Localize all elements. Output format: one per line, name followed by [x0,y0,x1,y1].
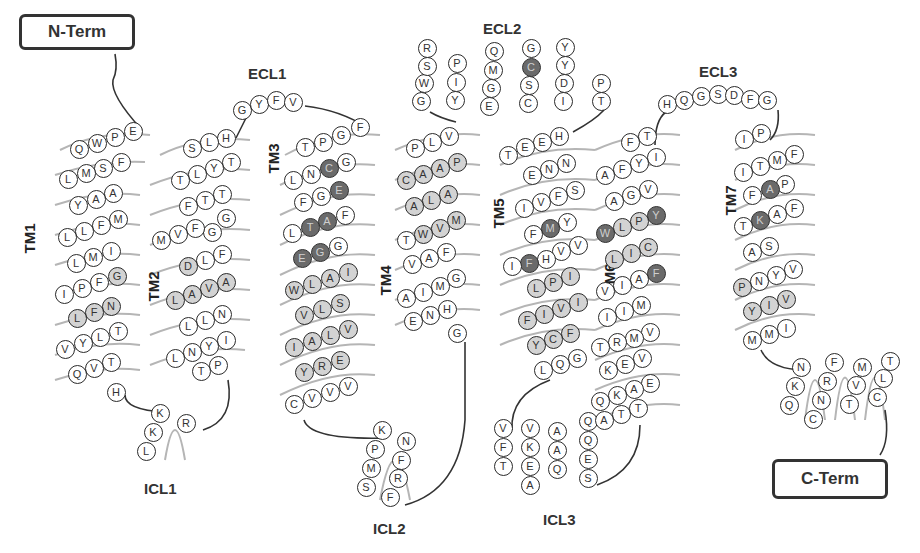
residue-tm5-31: Q [551,355,570,374]
residue-ecl3-7: G [758,91,777,110]
residue-tm6-27: L [613,218,632,237]
tm1-label: TM1 [21,224,38,254]
residue-tm7-16: V [784,260,803,279]
residue-tm5-29: Y [527,336,546,355]
tm4-label: TM4 [377,266,394,296]
residue-tm1-32: Q [68,365,87,384]
residue-tm6-19: A [630,270,649,289]
residue-tm4-7: I [414,283,433,302]
residue-tm2-19: F [186,219,205,238]
residue-tm6-30: G [622,186,641,205]
residue-tm5-1: H [550,127,569,146]
residue-ecl2-6: I [447,73,466,92]
residue-tm7-6: I [734,163,753,182]
residue-h8-1: N [792,358,811,377]
residue-tm4-18: A [405,197,424,216]
residue-tm3-27: L [321,326,340,345]
residue-icl2-2: P [366,440,385,459]
residue-tm5-19: I [503,257,522,276]
residue-tm6-13: R [608,333,627,352]
residue-icl3-9: A [548,441,567,460]
residue-ecl2-17: D [555,74,574,93]
residue-tm7-23: I [777,319,796,338]
residue-icl1-2: K [144,423,163,442]
residue-tm3-17: G [311,243,330,262]
residue-tm5-9: F [549,187,568,206]
residue-tm5-2: E [533,133,552,152]
residue-ecl2-21: P [592,74,611,93]
tm5-label: TM5 [490,199,507,229]
residue-ecl1-2: Y [250,95,269,114]
residue-tm1-21: P [73,279,92,298]
residue-tm7-17: Y [767,266,786,285]
residue-tm4-8: A [397,289,416,308]
residue-tm6-25: Y [647,206,666,225]
residue-tm5-32: L [534,361,553,380]
residue-tm2-1: P [209,356,228,375]
residue-tm6-33: Y [630,154,649,173]
residue-tm6-32: I [647,148,666,167]
residue-tm2-4: Y [200,337,219,356]
residue-tm2-10: A [217,273,236,292]
residue-ecl3-3: G [692,87,711,106]
residue-tm2-21: M [152,231,171,250]
residue-icl1-4: R [177,414,196,433]
residue-h8-5: N [812,391,831,410]
residue-tm3-20: A [321,269,340,288]
residue-tm6-16: I [615,302,634,321]
residue-ecl2-10: M [484,61,503,80]
residue-h8-8: T [840,395,859,414]
residue-ecl2-11: Q [485,42,504,61]
residue-tm6-9: E [616,355,635,374]
residue-icl3-8: A [548,422,567,441]
residue-tm6-2: T [629,399,648,418]
residue-ecl1-1: G [233,101,252,120]
residue-tm4-3: N [421,306,440,325]
residue-h8-3: Q [780,396,799,415]
residue-ecl2-13: S [520,76,539,95]
residue-tm5-5: N [557,154,576,173]
residue-tm2-29: H [217,129,236,148]
residue-tm4-4: E [404,312,423,331]
residue-tm1-22: I [55,285,74,304]
residue-tm2-7: N [213,305,232,324]
residue-h8-11: C [868,388,887,407]
residue-tm5-17: H [537,250,556,269]
residue-tm4-23: V [440,127,459,146]
residue-tm6-34: F [613,160,632,179]
residue-tm2-12: A [183,285,202,304]
residue-ecl3-6: F [741,90,760,109]
residue-tm2-16: D [179,257,198,276]
residue-tm7-18: N [750,272,769,291]
residue-h8-6: R [818,372,837,391]
residue-tm5-8: S [566,181,585,200]
n-terminus-box: N-Term [19,14,135,50]
residue-h8-10: M [853,358,872,377]
residue-icl2-4: S [357,478,376,497]
residue-tm1-20: F [90,273,109,292]
residue-tm5-25: I [535,305,554,324]
residue-tm7-3: F [785,145,804,164]
residue-h8-13: T [881,352,900,371]
residue-ecl1-3: F [267,91,286,110]
residue-tm6-3: A [595,411,614,430]
residue-tm2-9: L [179,317,198,336]
residue-tm5-26: F [518,311,537,330]
residue-tm3-16: G [329,237,348,256]
residue-tm6-10: K [599,361,618,380]
residue-tm3-33: V [339,377,358,396]
residue-tm7-14: S [760,237,779,256]
residue-tm3-2: G [332,126,351,145]
residue-tm2-6: L [166,349,185,368]
residue-tm2-26: Y [205,159,224,178]
residue-ecl2-5: Y [446,91,465,110]
residue-tm4-6: M [431,277,450,296]
residue-tm2-25: T [222,153,241,172]
residue-ecl2-2: W [415,74,434,93]
residue-tm2-3: I [217,331,236,350]
residue-tm4-19: P [448,153,467,172]
residue-tm7-21: I [760,296,779,315]
residue-tm4-10: A [420,249,439,268]
residue-ecl2-9: G [482,79,501,98]
residue-tm1-11: Y [69,196,88,215]
